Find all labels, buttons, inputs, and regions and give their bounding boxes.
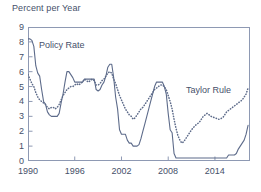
y-tick-label-0: 0 (8, 157, 24, 166)
y-tick-label-8: 8 (8, 38, 24, 47)
y-tick-marks (29, 27, 33, 161)
y-axis-title: Percent per Year (12, 3, 81, 13)
y-tick-label-3: 3 (8, 112, 24, 121)
plot-svg (28, 27, 250, 161)
y-tick-label-1: 1 (8, 142, 24, 151)
x-tick-label-2014: 2014 (195, 167, 235, 176)
y-tick-label-2: 2 (8, 127, 24, 136)
x-tick-label-1996: 1996 (55, 167, 95, 176)
y-tick-label-7: 7 (8, 53, 24, 62)
y-tick-label-9: 9 (8, 23, 24, 32)
x-tick-label-2002: 2002 (101, 167, 141, 176)
y-tick-label-5: 5 (8, 83, 24, 92)
y-tick-label-6: 6 (8, 68, 24, 77)
y-tick-label-4: 4 (8, 97, 24, 106)
plot-frame (29, 28, 250, 161)
chart-figure: Percent per Year 9 8 7 6 5 4 3 2 1 0 199… (0, 0, 261, 192)
series-line-policy-rate (28, 39, 248, 158)
series-line-taylor-rule (28, 72, 248, 143)
plot-area (28, 27, 250, 161)
x-tick-label-1990: 1990 (8, 167, 48, 176)
x-tick-label-2008: 2008 (148, 167, 188, 176)
